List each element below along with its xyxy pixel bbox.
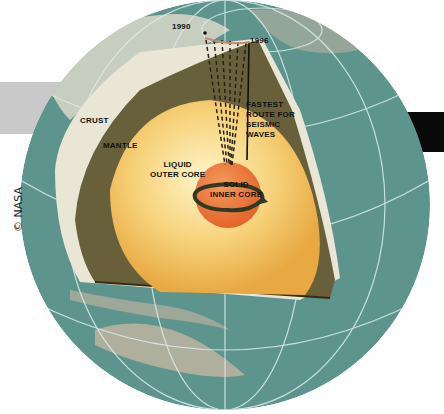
seismic-annotation: FASTEST ROUTE FOR SEISMIC WAVES <box>246 100 295 140</box>
outer-core-label: LIQUID OUTER CORE <box>150 160 205 180</box>
inner-core-label: SOLID INNER CORE <box>210 180 262 200</box>
mantle-label: MANTLE <box>103 141 138 151</box>
year-marker-1996: 1996 <box>250 36 269 46</box>
earth-cutaway-diagram <box>0 0 444 414</box>
crust-label: CRUST <box>80 116 109 126</box>
year-marker-1990: 1990 <box>172 22 191 32</box>
nasa-credit: © NASA <box>12 187 25 232</box>
